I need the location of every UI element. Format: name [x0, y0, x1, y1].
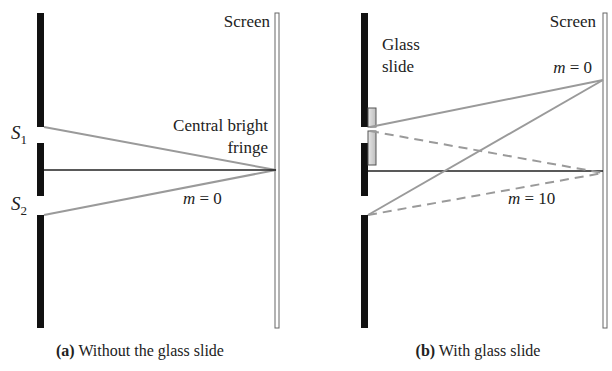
ray-s1-dashed-to-center — [370, 131, 603, 173]
ray-s1-solid-to-m0 — [370, 80, 603, 127]
screen — [603, 13, 607, 328]
barrier-middle-segment — [361, 143, 368, 196]
screen-label: Screen — [224, 12, 271, 31]
double-slit-diagram: Screen S1 S2 Central bright fringe m = 0… — [0, 0, 612, 371]
panel-a-without-glass: Screen S1 S2 Central bright fringe m = 0… — [11, 12, 279, 360]
ray-s2 — [44, 170, 276, 215]
order-m0-label: m = 0 — [183, 189, 222, 208]
glass-slide-label-line2: slide — [382, 57, 414, 76]
barrier-top-segment — [361, 13, 368, 127]
glass-slide-label-line1: Glass — [382, 35, 420, 54]
ray-s2-solid-to-m0 — [368, 80, 603, 215]
top-order-m0-label: m = 0 — [553, 58, 592, 77]
barrier-middle-segment — [37, 143, 44, 196]
center-order-m10-label: m = 10 — [508, 189, 555, 208]
screen-label: Screen — [550, 12, 597, 31]
glass-slide-upper — [368, 108, 376, 127]
slit-s1-label: S1 — [11, 122, 27, 147]
central-fringe-label-line1: Central bright — [173, 116, 268, 135]
central-fringe-label-line2: fringe — [227, 138, 268, 157]
panel-b-with-glass: Screen m = 0 Glass slide m = 10 (b) With… — [361, 12, 607, 360]
caption-b: (b) With glass slide — [416, 342, 541, 360]
glass-slide-lower — [368, 131, 376, 165]
barrier-bottom-segment — [37, 215, 44, 328]
barrier-bottom-segment — [361, 215, 368, 328]
caption-a: (a) Without the glass slide — [56, 342, 224, 360]
slit-s2-label: S2 — [11, 193, 27, 218]
barrier-top-segment — [37, 13, 44, 127]
